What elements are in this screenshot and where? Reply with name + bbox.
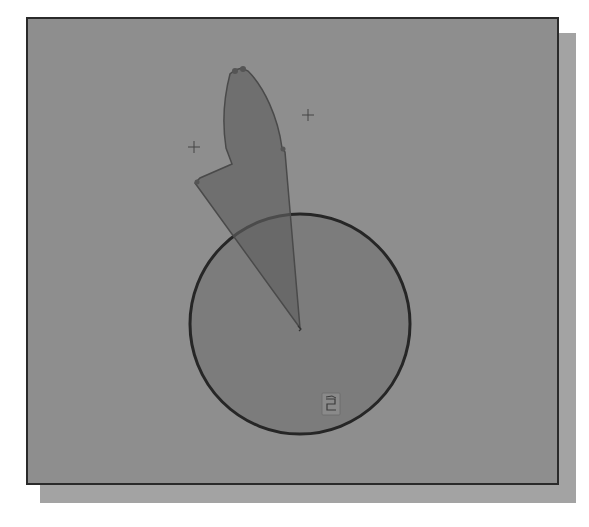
construction-point-right-icon[interactable] bbox=[302, 109, 314, 121]
vertex-top-left[interactable] bbox=[232, 68, 238, 74]
view-orientation-icon[interactable] bbox=[322, 393, 340, 415]
construction-point-left-icon[interactable] bbox=[188, 141, 200, 153]
sketch-canvas[interactable] bbox=[26, 17, 559, 485]
vertex-top[interactable] bbox=[240, 66, 246, 72]
vertex-right[interactable] bbox=[281, 147, 286, 152]
graphics-viewport[interactable] bbox=[26, 17, 559, 485]
vertex-left[interactable] bbox=[195, 180, 200, 185]
